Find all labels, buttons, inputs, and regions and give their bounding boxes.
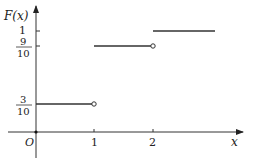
x-tick-label-1: 1 — [91, 136, 98, 149]
y-tick-label-3-den: 10 — [17, 106, 30, 117]
y-axis-label: F(x) — [3, 9, 29, 23]
open-circle-x1 — [92, 102, 96, 106]
open-circle-x2 — [151, 44, 155, 48]
x-axis-label: x — [231, 135, 238, 149]
y-tick-label-9-num: 9 — [20, 36, 26, 47]
cdf-step-chart: F(x) x O 1 2 1 9 10 3 10 — [0, 0, 258, 161]
origin-label: O — [25, 136, 34, 149]
y-tick-label-9-den: 10 — [17, 48, 30, 59]
y-tick-label-3-num: 3 — [20, 94, 26, 105]
origin-point — [34, 130, 37, 133]
x-tick-label-2: 2 — [149, 136, 156, 149]
